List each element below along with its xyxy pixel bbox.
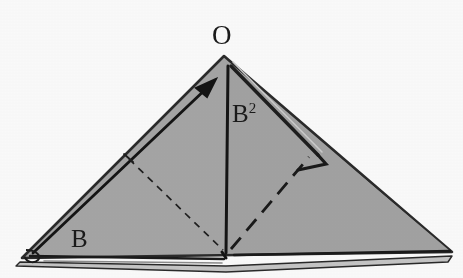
right-half-shading	[226, 62, 450, 252]
apex-label-o: O	[212, 22, 232, 49]
median-label-exponent: 2	[249, 100, 257, 116]
median-label-base: B	[232, 100, 249, 127]
geometry-diagram: O B B2	[0, 0, 463, 278]
median-line	[226, 66, 228, 253]
median-label-b-squared: B2	[232, 101, 256, 126]
left-base-label-b: B	[71, 226, 88, 251]
triangle-figure	[0, 0, 463, 278]
